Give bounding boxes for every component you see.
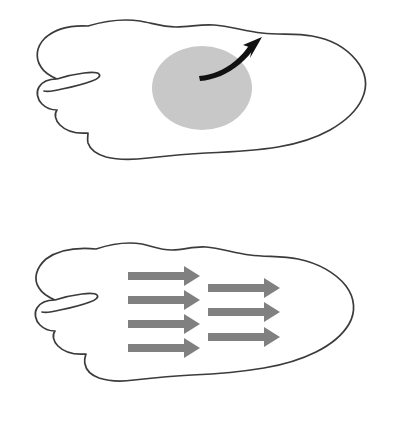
panel-bottom-canvas — [0, 213, 397, 427]
flow-arrows-right-column — [208, 278, 280, 347]
panel-top-canvas — [0, 0, 397, 213]
figure-root: Amoeboid cell movement diagram Panel A g… — [0, 0, 397, 427]
panel-bottom — [0, 213, 397, 427]
granular-endoplasm-ellipse — [152, 46, 252, 130]
cell-outline-bottom — [35, 243, 353, 381]
panel-top — [0, 0, 397, 213]
